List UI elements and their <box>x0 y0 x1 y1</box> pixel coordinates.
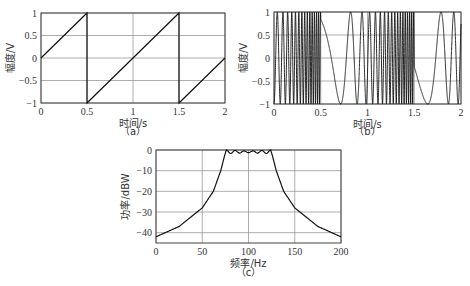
y-axis-label: 幅度/V <box>237 43 249 73</box>
y-axis-label: 幅度/V <box>4 43 16 73</box>
chart-b: 00.511.5210.50−0.5−1时间/s幅度/V（b） <box>237 7 464 138</box>
x-tick-label: 1.5 <box>408 107 421 118</box>
x-tick-label: 100 <box>241 246 256 257</box>
x-tick-label: 1 <box>365 107 370 118</box>
y-axis-label: 功率/dBW <box>119 173 131 219</box>
x-tick-label: 2 <box>223 106 228 117</box>
figure: 00.511.5210.50−0.5−1时间/s幅度/V（a）00.511.52… <box>0 0 470 286</box>
x-tick-label: 0.5 <box>315 107 328 118</box>
y-tick-label: 0 <box>147 145 152 156</box>
x-tick-label: 150 <box>287 246 302 257</box>
y-tick-label: 1 <box>32 8 37 19</box>
y-tick-label: −0.5 <box>19 75 37 86</box>
y-tick-label: −20 <box>136 186 152 197</box>
grid <box>156 150 341 243</box>
x-tick-label: 50 <box>197 246 207 257</box>
chart-a: 00.511.5210.50−0.5−1时间/s幅度/V（a） <box>4 8 228 138</box>
y-tick-label: 0 <box>32 53 37 64</box>
x-tick-label: 1.5 <box>173 106 186 117</box>
x-tick-label: 0 <box>39 106 44 117</box>
x-tick-label: 0 <box>272 107 277 118</box>
subfigure-caption: （a） <box>120 126 146 137</box>
x-tick-label: 200 <box>334 246 349 257</box>
x-tick-label: 1 <box>131 106 136 117</box>
y-tick-label: −10 <box>136 165 152 176</box>
y-tick-label: −1 <box>26 98 37 109</box>
y-tick-label: 0 <box>265 53 270 64</box>
subfigure-caption: （b） <box>354 126 380 137</box>
y-tick-label: 1 <box>265 7 270 18</box>
y-tick-label: −0.5 <box>252 76 270 87</box>
x-tick-label: 0 <box>154 246 159 257</box>
x-tick-label: 2 <box>459 107 464 118</box>
y-tick-label: 0.5 <box>258 30 271 41</box>
y-tick-label: 0.5 <box>25 30 38 41</box>
x-tick-label: 0.5 <box>81 106 94 117</box>
subfigure-caption: （c） <box>236 267 262 278</box>
chart-c: 0501001502000−10−20−30−40频率/Hz功率/dBW（c） <box>119 145 349 279</box>
y-tick-label: −1 <box>259 99 270 110</box>
y-tick-label: −30 <box>136 207 152 218</box>
y-tick-label: −40 <box>136 227 152 238</box>
